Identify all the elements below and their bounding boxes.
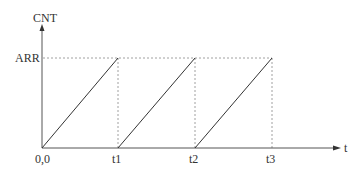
x-axis-label: t [344,142,347,154]
ramp-3 [195,58,272,148]
ramp-2 [118,58,195,148]
x-axis-arrow-icon [333,146,341,151]
t2-label: t2 [189,153,198,165]
y-axis-label: CNT [33,12,57,24]
y-axis-arrow-icon [40,24,45,31]
t1-label: t1 [112,153,121,165]
sawtooth-series [42,58,272,148]
arr-label: ARR [15,52,40,64]
t3-label: t3 [266,153,275,165]
diagram-canvas [0,0,354,174]
ramp-1 [42,58,118,148]
guide-lines [43,58,272,148]
origin-label: 0,0 [35,153,50,165]
counter-sawtooth-diagram: CNT ARR 0,0 t1 t2 t3 t [0,0,354,174]
